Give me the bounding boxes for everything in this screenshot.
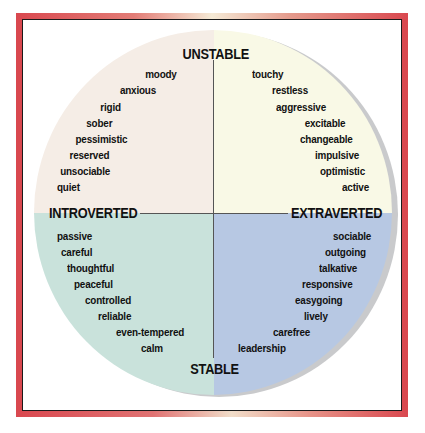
trait-label: active xyxy=(342,181,369,193)
trait-label: aggressive xyxy=(276,101,326,113)
trait-label: easygoing xyxy=(295,294,342,306)
trait-label: sober xyxy=(86,117,112,129)
trait-label: thoughtful xyxy=(67,262,114,274)
trait-label: controlled xyxy=(85,294,131,306)
trait-label: reserved xyxy=(69,149,109,161)
trait-label: reliable xyxy=(98,310,131,322)
trait-label: peaceful xyxy=(74,278,113,290)
trait-label: rigid xyxy=(100,101,121,113)
trait-label: excitable xyxy=(305,117,346,129)
trait-label: careful xyxy=(61,246,92,258)
vertical-axis-line xyxy=(213,60,214,358)
trait-label: responsive xyxy=(302,278,353,290)
horizontal-axis-line xyxy=(140,213,288,214)
trait-label: outgoing xyxy=(325,246,366,258)
trait-label: touchy xyxy=(252,68,283,80)
trait-label: leadership xyxy=(238,342,286,354)
trait-label: impulsive xyxy=(315,149,359,161)
trait-label: pessimistic xyxy=(75,133,127,145)
trait-label: moody xyxy=(145,68,177,80)
trait-label: anxious xyxy=(120,84,156,96)
axis-label-stable: STABLE xyxy=(190,361,239,377)
trait-label: changeable xyxy=(300,133,353,145)
trait-label: calm xyxy=(141,342,163,354)
trait-label: even-tempered xyxy=(116,326,184,338)
axis-label-unstable: UNSTABLE xyxy=(183,46,249,62)
axis-label-introverted: INTROVERTED xyxy=(49,205,138,221)
trait-label: carefree xyxy=(273,326,310,338)
trait-label: lively xyxy=(304,310,328,322)
frame-bottom-edge xyxy=(16,411,408,417)
axis-label-extraverted: EXTRAVERTED xyxy=(291,205,382,221)
trait-label: sociable xyxy=(333,230,371,242)
trait-label: unsociable xyxy=(60,165,110,177)
trait-label: talkative xyxy=(319,262,357,274)
trait-label: passive xyxy=(57,230,92,242)
trait-label: quiet xyxy=(57,181,80,193)
trait-label: restless xyxy=(272,84,308,96)
trait-label: optimistic xyxy=(320,165,365,177)
